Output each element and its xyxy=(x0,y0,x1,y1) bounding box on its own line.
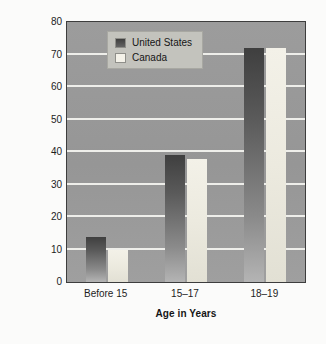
legend: United States Canada xyxy=(107,31,203,69)
bar-18–19-canada xyxy=(266,48,286,282)
legend-label-canada: Canada xyxy=(132,52,167,63)
x-axis-title: Age in Years xyxy=(66,308,306,319)
y-tick-label-60: 60 xyxy=(36,81,62,92)
bar-15–17-united-states xyxy=(165,155,185,282)
bar-15–17-canada xyxy=(187,159,207,283)
bar-18–19-united-states xyxy=(244,48,264,282)
x-tick-label-1: 15–17 xyxy=(171,288,199,299)
y-tick-label-80: 80 xyxy=(36,16,62,27)
legend-swatch-canada xyxy=(115,53,126,63)
y-tick-label-50: 50 xyxy=(36,113,62,124)
y-tick-label-40: 40 xyxy=(36,146,62,157)
y-tick-label-20: 20 xyxy=(36,211,62,222)
chart-figure: Percentage of Adolescent Girls Having Ha… xyxy=(0,0,326,344)
plot-area: United States Canada xyxy=(66,21,306,283)
legend-item-canada: Canada xyxy=(115,52,192,63)
bar-before-15-canada xyxy=(108,250,128,283)
y-tick-label-70: 70 xyxy=(36,48,62,59)
y-tick-label-0: 0 xyxy=(36,276,62,287)
legend-label-united-states: United States xyxy=(132,37,192,48)
y-tick-label-10: 10 xyxy=(36,243,62,254)
x-tick-label-0: Before 15 xyxy=(84,288,127,299)
bar-before-15-united-states xyxy=(86,237,106,283)
legend-item-united-states: United States xyxy=(115,37,192,48)
legend-swatch-united-states xyxy=(115,38,126,48)
y-tick-label-30: 30 xyxy=(36,178,62,189)
x-tick-label-2: 18–19 xyxy=(250,288,278,299)
x-axis-ticks: Before 1515–1718–19 xyxy=(66,288,306,302)
